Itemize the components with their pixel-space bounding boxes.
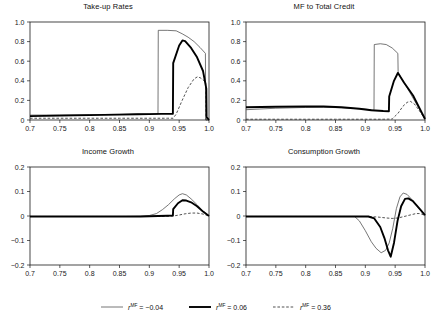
legend-item-thin-solid: rMF = −0.04	[101, 303, 163, 311]
svg-text:0.95: 0.95	[388, 270, 402, 277]
svg-text:0: 0	[21, 213, 25, 220]
svg-text:0.85: 0.85	[113, 125, 127, 132]
svg-text:0.6: 0.6	[15, 58, 25, 65]
plot-income-growth: 0.70.750.80.850.90.951.0−0.2−0.100.10.2	[0, 145, 216, 290]
legend-item-dashed: rMF = 0.36	[273, 303, 331, 311]
svg-text:0.85: 0.85	[113, 270, 127, 277]
figure-panel-grid: Take-up Rates 0.70.750.80.850.90.951.000…	[0, 0, 432, 324]
svg-text:0.75: 0.75	[53, 270, 67, 277]
svg-text:0.85: 0.85	[329, 270, 343, 277]
svg-text:0.8: 0.8	[231, 38, 241, 45]
plot-consumption-growth: 0.70.750.80.850.90.951.0−0.2−0.100.10.2	[216, 145, 432, 290]
chart-legend: rMF = −0.04 rMF = 0.06 rMF = 0.36	[0, 290, 432, 324]
svg-text:0.8: 0.8	[85, 125, 95, 132]
svg-text:1.0: 1.0	[15, 19, 25, 26]
svg-text:0.7: 0.7	[241, 125, 251, 132]
svg-text:0.75: 0.75	[53, 125, 67, 132]
svg-text:−0.2: −0.2	[227, 262, 241, 269]
svg-text:0.7: 0.7	[25, 270, 35, 277]
svg-text:0.75: 0.75	[269, 270, 283, 277]
svg-text:0.8: 0.8	[15, 38, 25, 45]
svg-text:1.0: 1.0	[231, 19, 241, 26]
plot-mf-to-total-credit: 0.70.750.80.850.90.951.000.20.40.60.81.0	[216, 0, 432, 145]
svg-text:0.8: 0.8	[301, 270, 311, 277]
svg-text:0.95: 0.95	[172, 125, 186, 132]
legend-label-thin-solid: rMF = −0.04	[128, 304, 163, 311]
legend-label-dashed: rMF = 0.36	[300, 304, 331, 311]
svg-text:0.8: 0.8	[85, 270, 95, 277]
svg-text:0.9: 0.9	[360, 270, 370, 277]
svg-text:0.95: 0.95	[172, 270, 186, 277]
svg-text:0.2: 0.2	[15, 97, 25, 104]
svg-text:0.1: 0.1	[231, 188, 241, 195]
svg-text:0.6: 0.6	[231, 58, 241, 65]
svg-text:0.9: 0.9	[144, 125, 154, 132]
svg-text:0.4: 0.4	[15, 77, 25, 84]
svg-text:1.0: 1.0	[204, 125, 214, 132]
svg-text:0.2: 0.2	[231, 97, 241, 104]
panels-container: Take-up Rates 0.70.750.80.850.90.951.000…	[0, 0, 432, 290]
legend-swatch-thick-solid	[189, 303, 211, 311]
panel-income-growth: Income Growth 0.70.750.80.850.90.951.0−0…	[0, 145, 216, 290]
svg-text:0.7: 0.7	[241, 270, 251, 277]
legend-swatch-dashed	[273, 303, 295, 311]
svg-text:0.75: 0.75	[269, 125, 283, 132]
svg-text:−0.2: −0.2	[11, 262, 25, 269]
svg-text:1.0: 1.0	[204, 270, 214, 277]
legend-item-thick-solid: rMF = 0.06	[189, 303, 247, 311]
svg-text:0.7: 0.7	[25, 125, 35, 132]
legend-swatch-thin-solid	[101, 303, 123, 311]
svg-text:0: 0	[21, 117, 25, 124]
svg-text:0: 0	[237, 213, 241, 220]
svg-text:1.0: 1.0	[420, 125, 430, 132]
svg-text:0: 0	[237, 117, 241, 124]
svg-text:1.0: 1.0	[420, 270, 430, 277]
svg-text:0.8: 0.8	[301, 125, 311, 132]
svg-text:0.9: 0.9	[360, 125, 370, 132]
legend-label-thick-solid: rMF = 0.06	[216, 304, 247, 311]
panel-mf-to-total-credit: MF to Total Credit 0.70.750.80.850.90.95…	[216, 0, 432, 145]
plot-take-up-rates: 0.70.750.80.850.90.951.000.20.40.60.81.0	[0, 0, 216, 145]
svg-text:0.9: 0.9	[144, 270, 154, 277]
panel-take-up-rates: Take-up Rates 0.70.750.80.850.90.951.000…	[0, 0, 216, 145]
svg-text:0.4: 0.4	[231, 77, 241, 84]
svg-text:0.2: 0.2	[231, 164, 241, 171]
svg-text:−0.1: −0.1	[227, 237, 241, 244]
svg-text:0.2: 0.2	[15, 164, 25, 171]
svg-text:0.95: 0.95	[388, 125, 402, 132]
svg-text:0.85: 0.85	[329, 125, 343, 132]
svg-text:−0.1: −0.1	[11, 237, 25, 244]
svg-text:0.1: 0.1	[15, 188, 25, 195]
panel-consumption-growth: Consumption Growth 0.70.750.80.850.90.95…	[216, 145, 432, 290]
